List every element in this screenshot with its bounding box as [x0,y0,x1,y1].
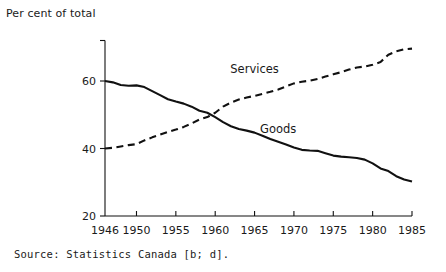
x-tick-label: 1975 [319,224,347,237]
series-line-goods [105,81,412,182]
x-tick-label: 1980 [359,224,387,237]
y-tick-label: 40 [82,143,96,156]
line-chart: 2040601946195019551960196519701975198019… [0,0,446,272]
x-tick-label: 1985 [398,224,426,237]
source-note: Source: Statistics Canada [b; d]. [14,248,229,260]
x-tick-label: 1970 [280,224,308,237]
x-tick-label: 1960 [201,224,229,237]
series-annotation-goods: Goods [260,122,296,136]
figure-panel: Per cent of total 2040601946195019551960… [0,0,446,272]
x-tick-label: 1946 [91,224,119,237]
series-annotation-services: Services [230,62,279,76]
y-tick-label: 20 [82,210,96,223]
x-tick-label: 1965 [241,224,269,237]
x-tick-label: 1955 [162,224,190,237]
y-tick-label: 60 [82,75,96,88]
x-tick-label: 1950 [122,224,150,237]
